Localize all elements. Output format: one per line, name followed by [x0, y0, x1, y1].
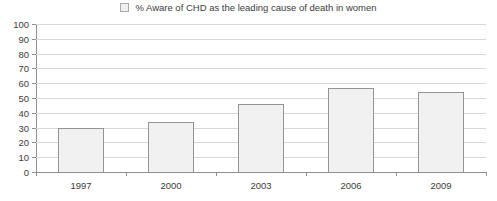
- bar-slot: [148, 24, 194, 172]
- y-axis-label: 50: [3, 94, 29, 103]
- y-axis-label: 70: [3, 64, 29, 73]
- x-axis-line: [36, 172, 486, 173]
- x-axis-tick: [486, 172, 487, 176]
- y-axis-label: 20: [3, 138, 29, 147]
- chart-legend: % Aware of CHD as the leading cause of d…: [0, 2, 497, 13]
- legend-label: % Aware of CHD as the leading cause of d…: [135, 2, 376, 13]
- y-axis-label: 0: [3, 168, 29, 177]
- bar-2006[interactable]: [328, 88, 374, 172]
- bar-2003[interactable]: [238, 104, 284, 172]
- x-axis-label-2003: 2003: [250, 180, 271, 191]
- y-axis-label: 30: [3, 123, 29, 132]
- bar-chart: % Aware of CHD as the leading cause of d…: [0, 0, 497, 201]
- x-axis-tick: [126, 172, 127, 176]
- y-axis-label: 90: [3, 34, 29, 43]
- x-axis-label-1997: 1997: [70, 180, 91, 191]
- y-axis-label: 10: [3, 153, 29, 162]
- bar-slot: [58, 24, 104, 172]
- x-axis-tick: [306, 172, 307, 176]
- bar-slot: [238, 24, 284, 172]
- y-axis-label: 60: [3, 79, 29, 88]
- bars-group: [36, 24, 486, 172]
- plot-area: 0102030405060708090100: [36, 24, 486, 172]
- bar-slot: [418, 24, 464, 172]
- bar-2000[interactable]: [148, 122, 194, 172]
- x-axis-tick: [36, 172, 37, 176]
- legend-swatch-icon: [120, 3, 129, 12]
- y-axis-label: 40: [3, 108, 29, 117]
- y-axis-label: 100: [3, 20, 29, 29]
- x-axis-tick: [396, 172, 397, 176]
- bar-2009[interactable]: [418, 92, 464, 172]
- x-axis-label-2006: 2006: [340, 180, 361, 191]
- bar-1997[interactable]: [58, 128, 104, 172]
- x-axis-tick: [216, 172, 217, 176]
- y-axis-label: 80: [3, 49, 29, 58]
- x-axis-label-2009: 2009: [430, 180, 451, 191]
- x-axis-label-2000: 2000: [160, 180, 181, 191]
- bar-slot: [328, 24, 374, 172]
